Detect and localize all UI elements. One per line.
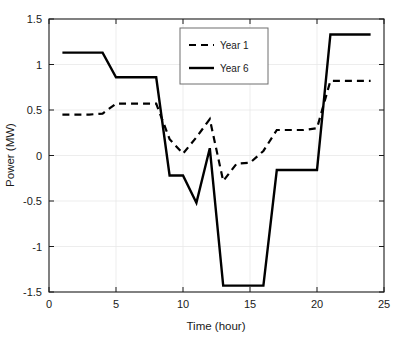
x-tick-label: 15 — [244, 298, 256, 310]
y-tick-label: 0 — [36, 150, 42, 162]
chart-figure: 0510152025 -1.5-1-0.500.511.5 Time (hour… — [0, 0, 409, 342]
x-tick-label: 0 — [46, 298, 52, 310]
y-tick-label: 0.5 — [27, 104, 42, 116]
x-tick-label: 10 — [177, 298, 189, 310]
y-tick-label: -0.5 — [23, 195, 42, 207]
legend-box — [180, 28, 268, 84]
power-profile-line-chart: 0510152025 -1.5-1-0.500.511.5 Time (hour… — [0, 0, 409, 342]
y-axis-title: Power (MW) — [4, 123, 16, 187]
x-tick-label: 5 — [113, 298, 119, 310]
x-axis-tick-labels: 0510152025 — [46, 298, 390, 310]
legend-label-year-6: Year 6 — [220, 63, 249, 74]
y-axis-tick-labels: -1.5-1-0.500.511.5 — [23, 13, 42, 298]
x-axis-title: Time (hour) — [187, 320, 246, 332]
y-tick-label: 1.5 — [27, 13, 42, 25]
chart-legend: Year 1 Year 6 — [180, 28, 268, 84]
y-tick-label: -1.5 — [23, 286, 42, 298]
x-tick-label: 25 — [378, 298, 390, 310]
legend-label-year-1: Year 1 — [220, 40, 249, 51]
y-tick-label: -1 — [32, 241, 42, 253]
y-tick-label: 1 — [36, 59, 42, 71]
x-tick-label: 20 — [311, 298, 323, 310]
